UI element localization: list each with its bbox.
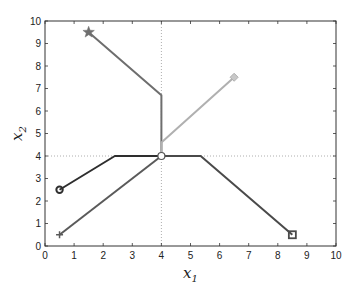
x-tick-label: 4 <box>159 250 165 261</box>
circle-path <box>60 156 162 190</box>
diamond-path <box>161 77 234 156</box>
y-tick-label: 1 <box>35 218 41 229</box>
y-tick-label: 5 <box>35 128 41 139</box>
y-tick-label: 8 <box>35 61 41 72</box>
x-tick-label: 0 <box>42 250 48 261</box>
intersection-circle-icon <box>158 153 165 160</box>
plus-path <box>60 156 162 235</box>
chart: 012345678910012345678910 x1 x2 <box>0 0 357 284</box>
x-tick-label: 10 <box>330 250 342 261</box>
svg-text:x1: x1 <box>183 264 198 284</box>
x-tick-label: 8 <box>275 250 281 261</box>
x-axis-title: x1 <box>183 264 198 284</box>
x-tick-label: 2 <box>100 250 106 261</box>
y-tick-label: 6 <box>35 106 41 117</box>
y-tick-label: 10 <box>30 16 42 27</box>
x-tick-label: 5 <box>188 250 194 261</box>
y-tick-label: 0 <box>35 241 41 252</box>
x-tick-label: 3 <box>130 250 136 261</box>
y-tick-label: 9 <box>35 38 41 49</box>
y-tick-label: 4 <box>35 151 41 162</box>
y-tick-label: 2 <box>35 196 41 207</box>
y-tick-label: 3 <box>35 173 41 184</box>
series-layer <box>60 32 293 235</box>
star-path <box>89 32 162 156</box>
axis-ticks: 012345678910012345678910 <box>30 16 342 262</box>
x-tick-label: 1 <box>71 250 77 261</box>
x-tick-label: 6 <box>217 250 223 261</box>
svg-text:x2: x2 <box>8 126 28 141</box>
x-tick-label: 7 <box>246 250 252 261</box>
x-tick-label: 9 <box>304 250 310 261</box>
square-path <box>161 156 292 235</box>
y-tick-label: 7 <box>35 83 41 94</box>
y-axis-title: x2 <box>8 126 28 141</box>
